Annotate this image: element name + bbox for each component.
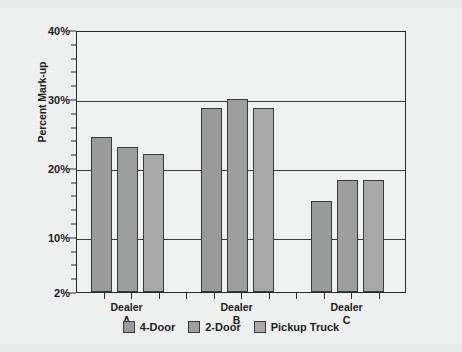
y-axis-tick-label: 30% (24, 94, 70, 106)
chart-legend: 4-Door2-DoorPickup Truck (0, 321, 462, 333)
y-axis-major-tick (69, 168, 76, 169)
legend-item: 4-Door (123, 321, 175, 333)
legend-item: 2-Door (188, 321, 240, 333)
bar (253, 108, 274, 292)
y-axis-tick-labels: 40%30%20%10%2% (24, 31, 70, 293)
x-axis-tick (159, 293, 160, 299)
bar (337, 180, 358, 292)
y-axis-tick-label: 2% (24, 287, 70, 299)
x-axis-tick (351, 293, 352, 299)
y-axis-major-tick (69, 31, 76, 32)
legend-swatch (188, 321, 200, 333)
x-axis-category-label-line: Dealer (221, 301, 253, 314)
x-axis-category-label-line: Dealer (331, 301, 363, 314)
x-axis-tick (269, 293, 270, 299)
x-axis-tick (241, 293, 242, 299)
x-axis-tick (131, 293, 132, 299)
x-axis-tick (104, 293, 105, 299)
legend-label: 2-Door (205, 321, 240, 333)
chart-card: Percent Mark-up 40%30%20%10%2% DealerADe… (0, 8, 462, 344)
x-axis-tick (186, 293, 187, 299)
x-axis-tick (379, 293, 380, 299)
legend-label: 4-Door (140, 321, 175, 333)
x-axis-category-label-line: Dealer (111, 301, 143, 314)
y-axis-tick-label: 10% (24, 232, 70, 244)
bar (363, 180, 384, 292)
y-axis-major-tick (69, 237, 76, 238)
bar (143, 154, 164, 292)
bar (311, 201, 332, 292)
x-axis-tick (214, 293, 215, 299)
bar (117, 147, 138, 292)
legend-swatch (254, 321, 266, 333)
legend-swatch (123, 321, 135, 333)
y-axis-major-tick (69, 99, 76, 100)
y-axis-tick-label: 40% (24, 25, 70, 37)
x-axis-ticks (76, 293, 406, 300)
x-axis-tick (296, 293, 297, 299)
x-axis-tick (324, 293, 325, 299)
legend-label: Pickup Truck (271, 321, 339, 333)
y-axis-tick-label: 20% (24, 163, 70, 175)
bar (201, 108, 222, 292)
bar (91, 137, 112, 292)
legend-item: Pickup Truck (254, 321, 339, 333)
bar (227, 99, 248, 292)
y-axis-major-tick (69, 293, 76, 294)
plot-area (76, 31, 406, 293)
